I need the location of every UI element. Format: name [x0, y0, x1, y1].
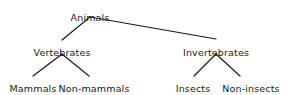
node-vertebrates: Vertebrates [33, 47, 90, 58]
animal-classification-tree-diagram: Animals Vertebrates Invertebrates Mammal… [0, 0, 287, 95]
node-non-insects: Non-insects [222, 83, 279, 94]
node-animals: Animals [71, 12, 110, 23]
node-mammals: Mammals [10, 83, 57, 94]
node-insects: Insects [176, 83, 211, 94]
node-invertebrates: Invertebrates [183, 47, 249, 58]
node-non-mammals: Non-mammals [58, 83, 129, 94]
